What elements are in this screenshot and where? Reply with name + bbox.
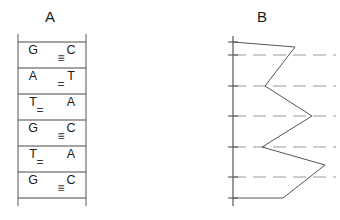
panel-labels-group: AB bbox=[45, 8, 267, 25]
panel-b-group bbox=[228, 36, 336, 206]
base-pair-bond-symbol: = bbox=[36, 155, 43, 169]
panel-label-a: A bbox=[45, 8, 55, 25]
base-pair-bond-symbol: ≡ bbox=[57, 129, 64, 143]
base-pair-bond-symbol: ≡ bbox=[57, 51, 64, 65]
base-letter-right: T bbox=[67, 69, 75, 83]
panel-a-group: GC≡AT=TA=GC≡TA=GC≡ bbox=[18, 34, 86, 206]
base-pair-bond-symbol: = bbox=[57, 77, 64, 91]
base-letter-right: A bbox=[67, 95, 76, 109]
base-letter-right: C bbox=[66, 173, 75, 187]
base-letter-left: G bbox=[28, 43, 38, 57]
figure-root: GC≡AT=TA=GC≡TA=GC≡ AB bbox=[0, 0, 340, 220]
base-letter-left: G bbox=[28, 173, 38, 187]
base-letter-left: A bbox=[29, 69, 38, 83]
base-letter-right: C bbox=[66, 43, 75, 57]
base-pair-bond-symbol: ≡ bbox=[57, 181, 64, 195]
base-letter-left: G bbox=[28, 121, 38, 135]
chart-trace-line bbox=[233, 42, 325, 198]
base-letter-right: A bbox=[67, 147, 76, 161]
base-letter-right: C bbox=[66, 121, 75, 135]
base-pair-bond-symbol: = bbox=[36, 103, 43, 117]
panel-label-b: B bbox=[257, 8, 267, 25]
